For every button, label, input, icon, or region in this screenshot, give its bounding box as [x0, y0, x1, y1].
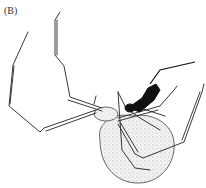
cephalothorax: [94, 107, 118, 121]
spider-illustration: [0, 0, 206, 188]
insect: [125, 62, 195, 112]
leg-far-left: [9, 32, 96, 132]
figure-panel: (B): [0, 0, 206, 188]
leg-upper-left: [55, 12, 102, 108]
abdomen: [99, 115, 174, 183]
